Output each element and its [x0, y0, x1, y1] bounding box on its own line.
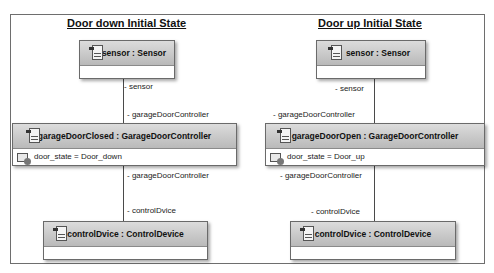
role-label-garage-door-controller: - garageDoorController [127, 110, 209, 119]
attribute-value: door_state = Door_down [34, 152, 122, 161]
object-control-device[interactable]: controlDvice : ControlDevice [290, 221, 456, 260]
class-instance-icon [56, 226, 67, 241]
object-garage-door-closed[interactable]: garageDoorClosed : GarageDoorController … [12, 123, 237, 166]
class-instance-icon [92, 45, 103, 60]
class-instance-icon [29, 128, 40, 143]
attribute-slot-icon [17, 153, 28, 162]
class-instance-icon [331, 45, 342, 60]
object-name: garageDoorClosed : GarageDoorController [38, 131, 211, 141]
object-sensor[interactable]: sensor : Sensor [79, 40, 175, 79]
role-label-garage-door-controller: - garageDoorController [127, 171, 209, 180]
object-body [317, 66, 425, 79]
object-control-device[interactable]: controlDvice : ControlDevice [43, 221, 208, 260]
object-body [291, 247, 455, 260]
class-instance-icon [303, 226, 314, 241]
role-label-control-device: - controlDvice [311, 207, 360, 216]
diagram-title-door-down: Door down Initial State [67, 17, 186, 29]
object-body [80, 66, 174, 79]
role-label-sensor: - sensor [335, 84, 364, 93]
link-sensor-controller[interactable] [374, 78, 375, 123]
object-name: sensor : Sensor [332, 48, 410, 58]
attribute-slot-icon [270, 153, 281, 162]
link-controller-device[interactable] [374, 165, 375, 221]
class-instance-icon [280, 128, 291, 143]
object-name: garageDoorOpen : GarageDoorController [292, 131, 459, 141]
object-name: controlDvice : ControlDevice [67, 229, 184, 239]
diagram-title-door-up: Door up Initial State [318, 17, 422, 29]
object-body [44, 247, 207, 260]
role-label-control-device: - controlDvice [127, 206, 176, 215]
role-label-garage-door-controller: - garageDoorController [280, 171, 362, 180]
attribute-value: door_state = Door_up [287, 152, 365, 161]
object-name: controlDvice : ControlDevice [315, 229, 432, 239]
role-label-garage-door-controller: - garageDoorController [273, 110, 355, 119]
object-garage-door-open[interactable]: garageDoorOpen : GarageDoorController do… [265, 123, 485, 166]
attribute-slot[interactable]: door_state = Door_up [266, 149, 484, 167]
object-sensor[interactable]: sensor : Sensor [316, 40, 426, 79]
attribute-slot[interactable]: door_state = Door_down [13, 149, 236, 167]
link-controller-device[interactable] [123, 165, 124, 221]
role-label-sensor: - sensor [124, 82, 153, 91]
